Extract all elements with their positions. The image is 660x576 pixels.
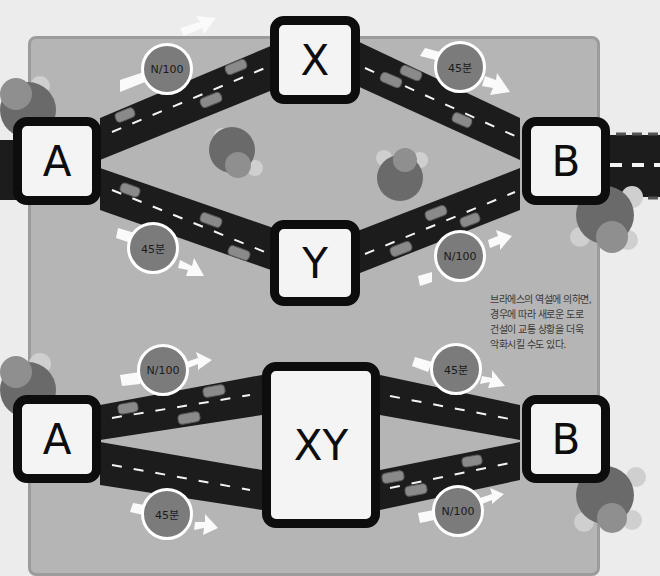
note-line: 악화시킬 수도 있다.	[490, 337, 620, 352]
badge-xy-b-lower: N/100	[432, 485, 484, 537]
note-line: 브라에스의 역설에 의하면,	[490, 292, 620, 307]
badge-x-b: 45분	[434, 41, 486, 93]
node-label: XY	[294, 421, 348, 470]
badge-y-b: N/100	[434, 230, 486, 282]
road-a-x	[100, 40, 285, 160]
braess-paradox-note: 브라에스의 역설에 의하면, 경우에 따라 새로운 도로 건설이 교통 상황을 …	[490, 292, 620, 352]
badge-a-x: N/100	[141, 43, 193, 95]
node-b-top: B	[522, 117, 610, 205]
badge-label: N/100	[151, 63, 184, 76]
node-a-bottom: A	[13, 395, 101, 483]
badge-label: 45분	[141, 240, 165, 256]
badge-label: N/100	[442, 505, 475, 518]
note-line: 경우에 따라 새로운 도로	[490, 307, 620, 322]
badge-a-xy-lower: 45분	[141, 488, 193, 540]
node-y: Y	[270, 220, 360, 306]
node-xy: XY	[262, 362, 380, 528]
tree-top-center-right	[376, 148, 428, 201]
node-label: X	[301, 36, 330, 85]
tree-top-center-left	[209, 127, 263, 178]
badge-xy-b-upper: 45분	[430, 343, 482, 395]
node-label: A	[43, 137, 72, 186]
badge-a-xy-upper: N/100	[137, 344, 189, 396]
note-line: 건설이 교통 상황을 더욱	[490, 322, 620, 337]
badge-label: 45분	[155, 506, 179, 522]
node-b-bottom: B	[522, 395, 610, 483]
badge-label: 45분	[444, 361, 468, 377]
node-label: Y	[302, 239, 328, 288]
node-a-top: A	[13, 117, 101, 205]
node-label: B	[552, 415, 581, 464]
node-x: X	[270, 16, 360, 104]
badge-label: N/100	[444, 250, 477, 263]
badge-label: N/100	[147, 364, 180, 377]
badge-label: 45분	[448, 59, 472, 75]
badge-a-y: 45분	[127, 222, 179, 274]
node-label: A	[43, 415, 72, 464]
node-label: B	[552, 137, 581, 186]
